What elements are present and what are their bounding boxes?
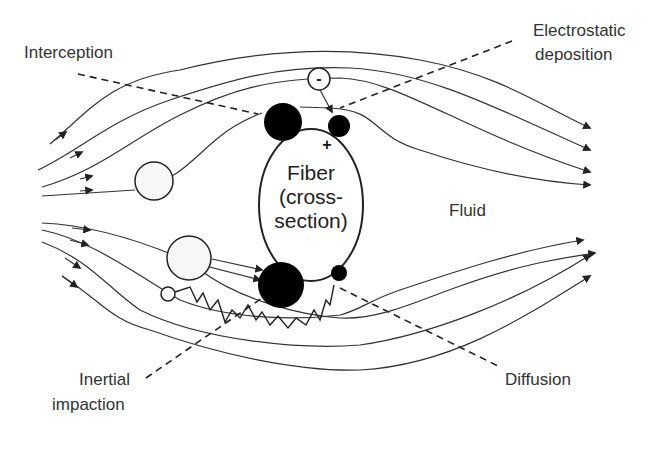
negative-charge-sign: -: [316, 70, 321, 87]
electrostatic-label-line2: deposition: [535, 44, 613, 66]
electrostatic-captured-particle: [328, 115, 350, 137]
positive-charge-sign: +: [322, 136, 331, 153]
streamline-8: [62, 276, 590, 370]
inertial-label-line1: Inertial: [79, 369, 130, 391]
diffusion-leader: [340, 288, 498, 366]
fluid-label: Fluid: [449, 200, 486, 222]
fiber-label-line3: section): [251, 209, 371, 233]
fiber-label-line2: (cross-: [251, 185, 371, 209]
inertial-label-line2: impaction: [52, 394, 125, 416]
interception-particle: [264, 103, 302, 141]
diffusion-captured-particle: [331, 265, 347, 281]
upper-start-arrows: [55, 132, 92, 191]
fiber-label-line1: Fiber: [251, 161, 371, 185]
diffusion-label: Diffusion: [505, 369, 571, 391]
streamline-5: [42, 223, 260, 280]
inertial-upstream-particle: [167, 236, 211, 280]
diffusion-particle-start: [161, 287, 175, 301]
electrostatic-leader: [340, 41, 512, 108]
upstream-particle: [135, 162, 173, 200]
electrostatic-label-line1: Electrostatic: [533, 20, 626, 42]
inertial-captured-particle: [258, 262, 304, 308]
interception-label: Interception: [24, 42, 113, 64]
